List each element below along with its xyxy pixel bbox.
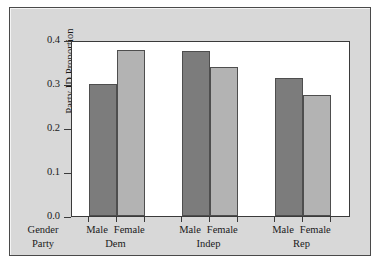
plot-area <box>71 41 350 217</box>
y-axis-tick-label: 0.4 <box>47 34 60 45</box>
y-axis-tick-label: 0.0 <box>47 210 60 221</box>
gender-label-pair: MaleFemale <box>68 224 164 235</box>
y-axis-tick-mark <box>64 173 71 174</box>
gender-label-male: Male <box>272 224 294 235</box>
gender-label-pair: MaleFemale <box>254 224 350 235</box>
y-axis-tick-label: 0.1 <box>47 166 60 177</box>
bar-indep-male <box>182 51 210 216</box>
gender-label-pair: MaleFemale <box>161 224 257 235</box>
x-axis-labels: Gender Party MaleFemaleDemMaleFemaleInde… <box>10 222 372 256</box>
axis-row-label-party: Party <box>16 238 70 249</box>
x-axis-group-dem: MaleFemaleDem <box>68 222 164 256</box>
gender-label-male: Male <box>86 224 108 235</box>
x-axis-group-indep: MaleFemaleIndep <box>161 222 257 256</box>
bars-layer <box>72 42 349 216</box>
party-label-indep: Indep <box>161 238 257 249</box>
y-axis-tick-label: 0.3 <box>47 78 60 89</box>
gender-label-female: Female <box>114 224 145 235</box>
party-label-dem: Dem <box>68 238 164 249</box>
y-axis-tick-label: 0.2 <box>47 122 60 133</box>
bar-rep-female <box>303 95 331 216</box>
y-axis-tick-mark <box>64 85 71 86</box>
bar-dem-female <box>117 50 145 216</box>
y-axis-tick-mark <box>64 41 71 42</box>
bar-dem-male <box>89 84 117 216</box>
x-axis-group-rep: MaleFemaleRep <box>254 222 350 256</box>
gender-label-female: Female <box>207 224 238 235</box>
gender-label-male: Male <box>179 224 201 235</box>
gender-label-female: Female <box>300 224 331 235</box>
y-axis-tick-mark <box>64 129 71 130</box>
axis-row-label-gender: Gender <box>16 224 70 235</box>
chart-panel: Party ID Proportion 0.00.10.20.30.4 Gend… <box>9 7 371 256</box>
bar-indep-female <box>210 67 238 216</box>
y-axis-tick-mark <box>64 217 71 218</box>
bar-rep-male <box>275 78 303 216</box>
party-label-rep: Rep <box>254 238 350 249</box>
